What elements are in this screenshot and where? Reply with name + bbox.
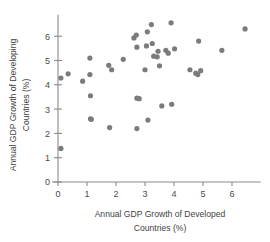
y-tick-label: 1 xyxy=(45,153,50,163)
data-point xyxy=(87,55,92,60)
x-tick-label: 1 xyxy=(84,189,89,199)
data-point xyxy=(145,117,150,122)
y-axis-title-line1: Annual GDP Growth of Developing xyxy=(8,38,18,171)
data-point xyxy=(106,63,111,68)
data-point xyxy=(242,26,247,31)
data-point xyxy=(142,67,147,72)
data-point xyxy=(80,79,85,84)
data-point xyxy=(169,20,174,25)
plot-area: 0123456 0123456 Annual GDP Growth of Dev… xyxy=(0,0,270,242)
data-point xyxy=(155,49,160,54)
x-axis-title: Annual GDP Growth of Developed Countries… xyxy=(95,209,226,233)
y-tick-label: 6 xyxy=(45,32,50,42)
data-point xyxy=(134,126,139,131)
data-point xyxy=(144,43,149,48)
data-points xyxy=(58,20,247,151)
data-point xyxy=(198,68,203,73)
x-tick-label: 2 xyxy=(113,189,118,199)
data-point xyxy=(134,45,139,50)
data-point xyxy=(196,38,201,43)
data-point xyxy=(159,103,164,108)
data-point xyxy=(109,67,114,72)
y-tick-label: 0 xyxy=(45,177,50,187)
data-point xyxy=(134,32,139,37)
data-point xyxy=(107,125,112,130)
data-point xyxy=(157,63,162,68)
data-point xyxy=(66,71,71,76)
axes xyxy=(52,15,261,182)
data-point xyxy=(121,57,126,62)
x-tick-label: 3 xyxy=(142,189,147,199)
tick-marks xyxy=(54,36,232,186)
x-axis-title-line2: Countries (%) xyxy=(134,223,187,233)
data-point xyxy=(166,51,171,56)
data-point xyxy=(169,102,174,107)
x-tick-labels: 0123456 xyxy=(55,189,234,199)
data-point xyxy=(89,117,94,122)
data-point xyxy=(58,146,63,151)
data-point xyxy=(150,41,155,46)
y-tick-label: 4 xyxy=(45,80,50,90)
data-point xyxy=(172,46,177,51)
y-axis-title: Annual GDP Growth of Developing Countrie… xyxy=(8,38,31,171)
data-point xyxy=(155,54,160,59)
data-point xyxy=(145,29,150,34)
data-point xyxy=(88,93,93,98)
y-tick-label: 2 xyxy=(45,129,50,139)
scatter-chart: 0123456 0123456 Annual GDP Growth of Dev… xyxy=(0,0,270,242)
x-axis-title-line1: Annual GDP Growth of Developed xyxy=(95,209,226,219)
data-point xyxy=(187,67,192,72)
y-tick-label: 3 xyxy=(45,105,50,115)
y-tick-labels: 0123456 xyxy=(45,32,50,188)
x-tick-label: 0 xyxy=(55,189,60,199)
data-point xyxy=(87,72,92,77)
data-point xyxy=(137,96,142,101)
x-tick-label: 6 xyxy=(229,189,234,199)
y-axis-title-line2: Countries (%) xyxy=(21,79,31,132)
data-point xyxy=(219,48,224,53)
x-tick-label: 4 xyxy=(171,189,176,199)
data-point xyxy=(149,22,154,27)
data-point xyxy=(58,75,63,80)
x-tick-label: 5 xyxy=(200,189,205,199)
y-tick-label: 5 xyxy=(45,56,50,66)
